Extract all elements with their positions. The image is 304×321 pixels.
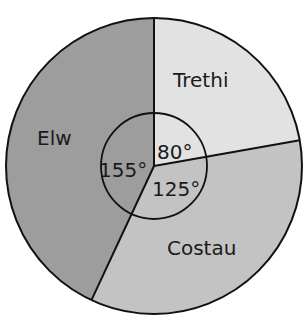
label-trethi: Trethi xyxy=(172,68,228,92)
angle-label-trethi: 80° xyxy=(157,140,192,164)
angle-label-costau: 125° xyxy=(152,177,200,201)
label-costau: Costau xyxy=(167,236,236,260)
angle-label-elw: 155° xyxy=(99,158,147,182)
label-elw: Elw xyxy=(37,126,72,150)
pie-chart: Trethi Costau Elw 80° 125° 155° xyxy=(0,0,304,321)
